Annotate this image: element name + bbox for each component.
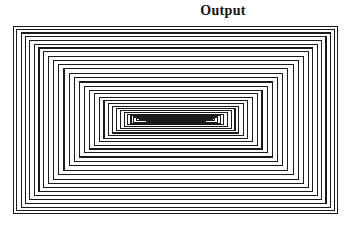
nested-rectangles-plot — [13, 26, 338, 214]
chart-title: Output — [0, 2, 351, 20]
plot-area — [13, 26, 338, 214]
chart-root: Output — [0, 0, 351, 229]
